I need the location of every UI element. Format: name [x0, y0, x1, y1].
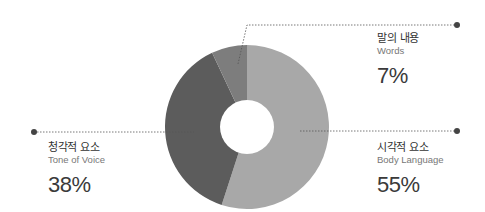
leader-dot-words	[454, 22, 460, 28]
label-body-korean: 시각적 요소	[377, 142, 444, 153]
donut-hole	[220, 100, 274, 154]
label-body-percent: 55%	[377, 174, 444, 196]
label-tone-percent: 38%	[48, 174, 105, 196]
leader-dot-tone	[31, 129, 37, 135]
label-body-language: 시각적 요소 Body Language 55%	[377, 142, 444, 196]
label-tone-of-voice: 청각적 요소 Tone of Voice 38%	[48, 142, 105, 196]
label-body-english: Body Language	[377, 155, 444, 165]
label-words-english: Words	[377, 46, 419, 56]
label-words: 말의 내용 Words 7%	[377, 33, 419, 87]
label-words-korean: 말의 내용	[377, 33, 419, 44]
label-tone-english: Tone of Voice	[48, 155, 105, 165]
leader-dot-body	[454, 128, 460, 134]
label-words-percent: 7%	[377, 65, 419, 87]
label-tone-korean: 청각적 요소	[48, 142, 105, 153]
